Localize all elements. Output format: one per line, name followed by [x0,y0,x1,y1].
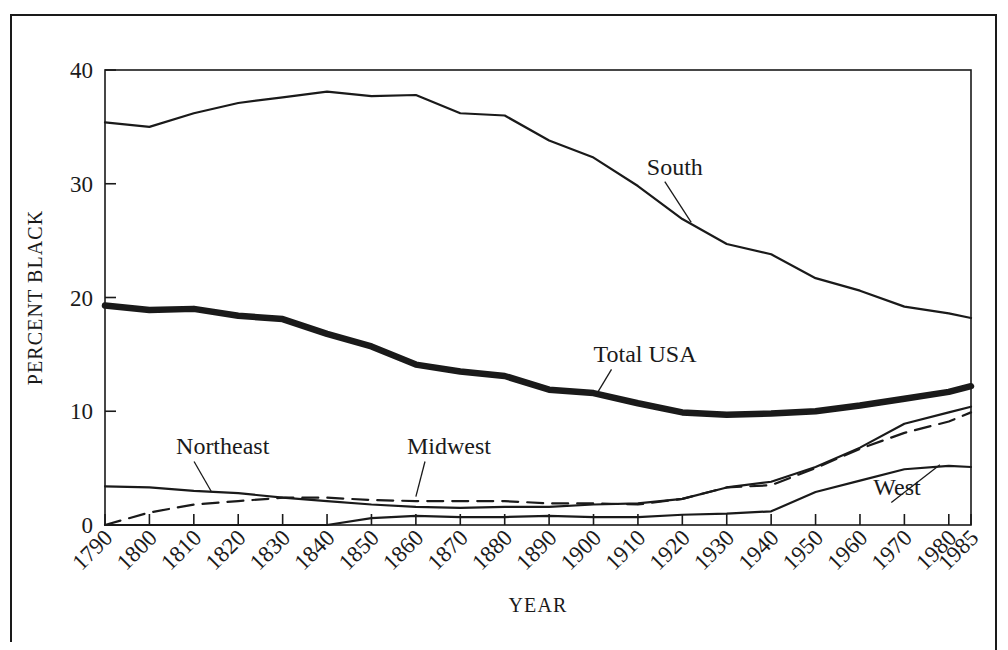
figure-border [10,14,996,642]
figure-container: 010203040 179018001810182018301840185018… [0,0,1008,650]
figure-border-right [995,14,997,650]
